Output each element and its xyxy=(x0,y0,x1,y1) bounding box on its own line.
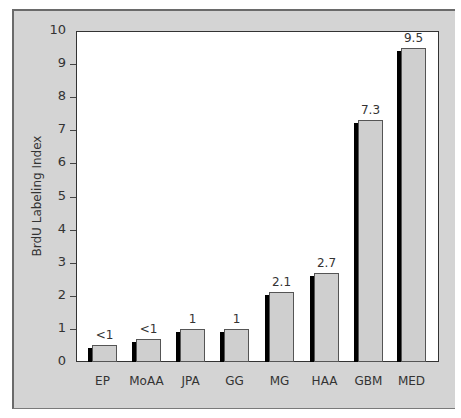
data-label: <1 xyxy=(129,322,169,336)
data-label: 7.3 xyxy=(351,103,391,117)
data-label: 1 xyxy=(173,312,213,326)
data-label: <1 xyxy=(85,328,125,342)
y-tick xyxy=(70,64,76,65)
y-tick-label: 9 xyxy=(42,55,66,70)
y-tick-label: 1 xyxy=(42,320,66,335)
x-tick-label: HAA xyxy=(300,374,350,388)
y-tick xyxy=(70,163,76,164)
data-label: 2.1 xyxy=(262,275,302,289)
x-tick-label: EP xyxy=(78,374,128,388)
y-tick xyxy=(70,130,76,131)
y-tick-label: 10 xyxy=(42,22,66,37)
bar-haa xyxy=(314,273,339,362)
x-tick-label: MoAA xyxy=(122,374,172,388)
y-tick-label: 7 xyxy=(42,121,66,136)
data-label: 9.5 xyxy=(394,31,434,45)
x-tick-label: MG xyxy=(255,374,305,388)
y-tick-label: 8 xyxy=(42,88,66,103)
y-tick xyxy=(70,230,76,231)
bar-mg xyxy=(269,292,294,362)
y-tick-label: 3 xyxy=(42,254,66,269)
bar-gg xyxy=(224,329,249,362)
data-label: 1 xyxy=(217,312,257,326)
y-tick-label: 0 xyxy=(42,353,66,368)
bar-med xyxy=(401,48,426,362)
x-tick-label: MED xyxy=(387,374,437,388)
y-tick-label: 6 xyxy=(42,154,66,169)
y-tick xyxy=(70,296,76,297)
data-label: 2.7 xyxy=(307,256,347,270)
plot-area xyxy=(76,31,439,362)
y-tick-label: 2 xyxy=(42,287,66,302)
bar-moaa xyxy=(136,339,161,362)
bar-gbm xyxy=(358,120,383,362)
y-tick xyxy=(70,197,76,198)
bar-ep xyxy=(92,345,117,362)
bar-jpa xyxy=(180,329,205,362)
y-tick xyxy=(70,263,76,264)
y-tick-label: 4 xyxy=(42,221,66,236)
x-tick-label: GG xyxy=(210,374,260,388)
x-tick-label: JPA xyxy=(166,374,216,388)
y-tick-label: 5 xyxy=(42,188,66,203)
y-tick xyxy=(70,97,76,98)
y-tick xyxy=(70,329,76,330)
